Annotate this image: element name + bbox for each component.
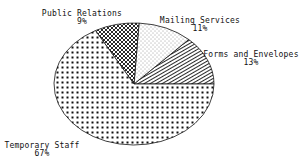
slice-label-temporary-staff: Temporary Staff 67% (4, 141, 79, 158)
slice-label-forms-and-envelopes: Forms and Envelopes 13% (203, 50, 298, 67)
percent-public-relations: 9% (77, 17, 87, 26)
pie-slices (54, 23, 214, 145)
pie-chart: Public Relations 9% Mailing Services 11%… (0, 0, 307, 163)
percent-temporary-staff: 67% (34, 149, 49, 158)
percent-forms-and-envelopes: 13% (243, 58, 258, 67)
slice-label-public-relations: Public Relations 9% (42, 9, 122, 26)
percent-mailing-services: 11% (192, 24, 207, 33)
